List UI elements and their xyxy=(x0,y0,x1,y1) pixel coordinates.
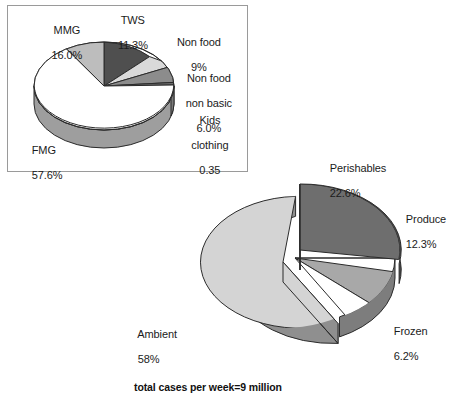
pie1-label-tws-name: TWS xyxy=(121,14,145,26)
pie2-label-perishables-name: Perishables xyxy=(330,162,386,174)
pie2-label-frozen: Frozen 6.2% xyxy=(382,313,442,375)
pie2-label-produce-value: 12.3% xyxy=(406,238,437,250)
pie1-label-kids-line1: Kids xyxy=(199,114,220,126)
pie1-label-tws: TWS 11.3% xyxy=(96,2,152,64)
pie1-label-non-food-name: Non food xyxy=(177,36,221,48)
pie2-label-ambient-name: Ambient xyxy=(137,328,177,340)
pie1-label-fmg-value: 57.6% xyxy=(32,169,63,181)
pie2-label-frozen-value: 6.2% xyxy=(394,350,419,362)
pie1-label-fmg-name: FMG xyxy=(32,144,56,156)
pie2-label-ambient-value: 58% xyxy=(138,353,160,365)
pie1-label-fmg: FMG 57.6% xyxy=(14,132,74,194)
pie2-label-ambient: Ambient 58% xyxy=(126,316,192,378)
pie1-label-mmg: MMG 16.0% xyxy=(28,12,88,74)
figure-caption: total cases per week=9 million xyxy=(134,381,282,393)
pie2-label-frozen-name: Frozen xyxy=(394,325,428,337)
pie2-label-produce-name: Produce xyxy=(406,213,446,225)
pie2-label-perishables-value: 22.6% xyxy=(330,187,361,199)
pie1-label-nfnb-line1: Non food xyxy=(187,72,231,84)
pie1-label-mmg-name: MMG xyxy=(54,24,81,36)
pie1-label-mmg-value: 16.0% xyxy=(52,49,83,61)
pie1-label-tws-value: 11.3% xyxy=(118,39,148,51)
pie2-label-produce: Produce 12.3% xyxy=(394,201,451,263)
product-group-pie-panel: MMG 16.0% TWS 11.3% Non food 9% Non food… xyxy=(7,5,248,172)
